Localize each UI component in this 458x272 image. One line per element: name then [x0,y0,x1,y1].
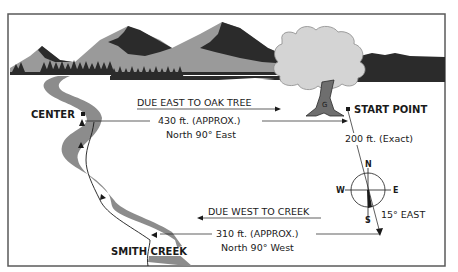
compass-east-label: E [393,186,398,195]
west-leg-heading: DUE WEST TO CREEK [208,206,310,217]
start-point-label: START POINT [354,104,427,115]
west-leg-bearing: North 90° West [221,242,294,253]
east-leg-distance: 430 ft. (APPROX.) [158,115,240,126]
tree-carving-mark: G [322,101,327,109]
compass-west-label: W [336,186,345,195]
center-label: CENTER [31,109,75,120]
start-point-marker [346,107,350,111]
smith-creek-label: SMITH CREEK [111,246,188,257]
south-leg-bearing: 15° EAST [381,209,425,220]
west-leg-distance: 310 ft. (APPROX.) [216,228,298,239]
compass-south-label: S [365,216,371,225]
south-leg-distance: 200 ft. (Exact) [345,133,413,144]
east-leg-bearing: North 90° East [166,129,236,140]
center-point-marker [81,112,85,116]
east-leg-heading: DUE EAST TO OAK TREE [137,97,251,108]
compass-north-label: N [365,160,372,169]
treasure-map-diagram: G START POINT CENTER DUE EAST TO OAK TRE… [0,0,458,272]
oak-tree-foliage [274,26,365,89]
